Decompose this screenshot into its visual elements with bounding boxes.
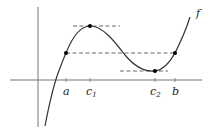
x-label-c1: c1 <box>86 85 97 99</box>
diagram-canvas: f a c1 c2 b <box>0 0 218 135</box>
point-c1-max <box>88 24 92 28</box>
point-a <box>64 51 68 55</box>
x-label-c2: c2 <box>150 85 161 99</box>
function-curve <box>45 17 190 126</box>
point-c2-min <box>153 69 157 73</box>
function-label: f <box>195 7 202 20</box>
x-label-b: b <box>172 85 179 98</box>
x-label-a: a <box>63 85 70 98</box>
point-b <box>173 51 177 55</box>
